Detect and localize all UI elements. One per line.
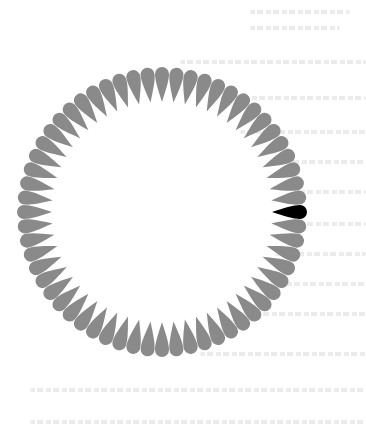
distractor-petal: [17, 190, 53, 208]
distractor-petal: [17, 205, 52, 219]
distractor-petal: [140, 67, 158, 103]
distractor-petal: [271, 190, 307, 208]
target-petal: [272, 205, 307, 219]
distractor-petal: [140, 321, 158, 357]
distractor-petal: [155, 67, 169, 102]
distractor-petal: [167, 321, 185, 357]
distractor-petal: [167, 67, 185, 103]
distractor-petal: [155, 322, 169, 357]
distractor-petal: [17, 217, 53, 235]
petal-ring-figure: [0, 0, 366, 446]
distractor-petal: [271, 217, 307, 235]
